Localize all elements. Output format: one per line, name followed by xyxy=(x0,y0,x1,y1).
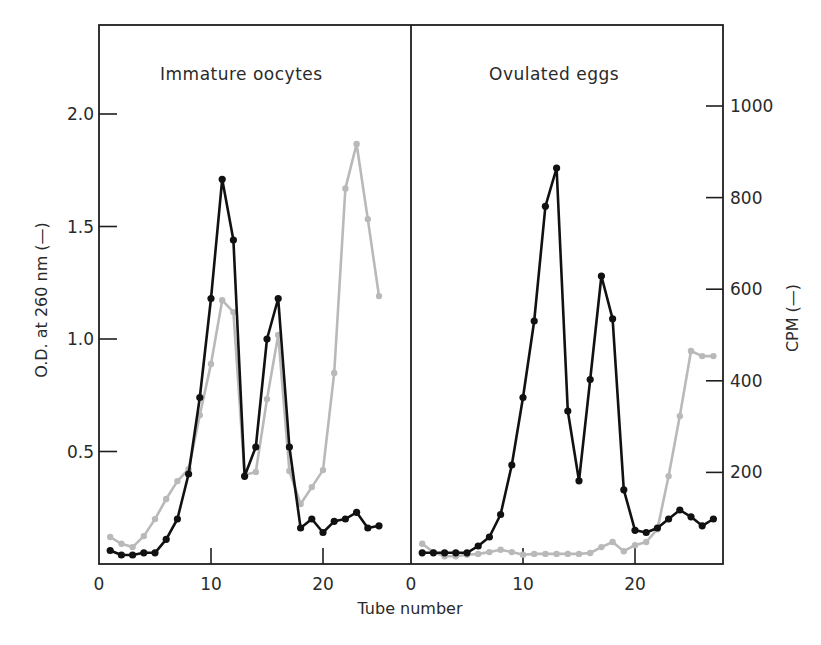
left-tick-label: 1.5 xyxy=(67,217,94,237)
od-data-point xyxy=(430,549,437,556)
cpm-data-point xyxy=(565,551,571,557)
od-data-point xyxy=(196,394,203,401)
y-axis-label-right: CPM (—) xyxy=(783,284,802,352)
cpm-data-point xyxy=(141,533,147,539)
cpm-data-point xyxy=(353,141,359,147)
od-data-point xyxy=(342,515,349,522)
cpm-data-point xyxy=(129,544,135,550)
od-data-point xyxy=(419,549,426,556)
od-data-point xyxy=(297,524,304,531)
od-data-point xyxy=(542,203,549,210)
od-data-point xyxy=(118,551,125,558)
cpm-series-0 xyxy=(107,141,382,551)
x-axis-label: Tube number xyxy=(356,599,462,618)
cpm-data-point xyxy=(118,541,124,547)
od-data-point xyxy=(643,529,650,536)
od-data-point xyxy=(207,295,214,302)
od-data-point xyxy=(531,317,538,324)
od-data-point xyxy=(710,515,717,522)
od-data-point xyxy=(129,551,136,558)
od-data-point xyxy=(107,547,114,554)
cpm-data-point xyxy=(152,516,158,522)
panel-title-immature-oocytes: Immature oocytes xyxy=(160,64,323,84)
cpm-data-point xyxy=(621,548,627,554)
cpm-data-point xyxy=(219,297,225,303)
od-data-point xyxy=(275,295,282,302)
od-data-point xyxy=(353,509,360,516)
od-data-point xyxy=(252,443,259,450)
cpm-data-point xyxy=(208,361,214,367)
cpm-data-point xyxy=(475,551,481,557)
od-data-point xyxy=(452,549,459,556)
chart-canvas: Immature oocytes Ovulated eggs Tube numb… xyxy=(0,0,821,645)
right-y-axis-ticks: 2004006008001000 xyxy=(706,96,773,482)
od-data-point xyxy=(486,533,493,540)
od-line xyxy=(422,168,713,553)
left-tick-label: 2.0 xyxy=(67,104,94,124)
left-tick-label: 1.0 xyxy=(67,329,94,349)
cpm-data-point xyxy=(609,539,615,545)
od-series-1 xyxy=(419,164,717,556)
od-data-point xyxy=(598,272,605,279)
od-data-point xyxy=(609,315,616,322)
y-axis-label-left: O.D. at 260 nm (—) xyxy=(32,222,51,378)
cpm-data-point xyxy=(632,542,638,548)
od-data-point xyxy=(699,522,706,529)
cpm-data-point xyxy=(163,496,169,502)
cpm-data-point xyxy=(509,549,515,555)
od-data-point xyxy=(151,549,158,556)
right-tick-label: 200 xyxy=(730,462,762,482)
od-data-point xyxy=(553,164,560,171)
od-data-point xyxy=(286,443,293,450)
cpm-data-point xyxy=(253,469,259,475)
right-tick-label: 800 xyxy=(730,188,762,208)
panel-title-ovulated-eggs: Ovulated eggs xyxy=(489,64,619,84)
od-series-0 xyxy=(107,176,383,559)
cpm-data-point xyxy=(576,551,582,557)
od-data-point xyxy=(364,524,371,531)
od-data-point xyxy=(564,407,571,414)
od-data-point xyxy=(497,511,504,518)
cpm-data-point xyxy=(320,467,326,473)
od-data-point xyxy=(631,527,638,534)
cpm-data-point xyxy=(331,370,337,376)
right-tick-label: 400 xyxy=(730,371,762,391)
cpm-data-point xyxy=(174,478,180,484)
od-data-point xyxy=(587,376,594,383)
od-data-point xyxy=(463,549,470,556)
cpm-data-point xyxy=(376,293,382,299)
od-data-point xyxy=(687,513,694,520)
cpm-data-point xyxy=(520,552,526,558)
od-line xyxy=(110,179,379,555)
cpm-data-point xyxy=(486,549,492,555)
cpm-data-point xyxy=(497,547,503,553)
od-data-point xyxy=(308,515,315,522)
od-data-point xyxy=(219,176,226,183)
cpm-data-point xyxy=(342,185,348,191)
cpm-data-point xyxy=(688,348,694,354)
cpm-data-point xyxy=(710,353,716,359)
od-data-point xyxy=(319,529,326,536)
right-tick-label: 600 xyxy=(730,279,762,299)
cpm-data-point xyxy=(553,551,559,557)
cpm-data-point xyxy=(699,353,705,359)
od-data-point xyxy=(263,335,270,342)
cpm-data-point xyxy=(365,216,371,222)
x-tick-label: 20 xyxy=(312,574,334,594)
cpm-data-point xyxy=(677,413,683,419)
cpm-series-1 xyxy=(419,348,717,560)
od-data-point xyxy=(241,473,248,480)
right-tick-label: 1000 xyxy=(730,96,773,116)
od-data-point xyxy=(508,461,515,468)
od-data-point xyxy=(676,506,683,513)
od-data-point xyxy=(140,549,147,556)
cpm-data-point xyxy=(309,484,315,490)
chromatography-profile-figure: Immature oocytes Ovulated eggs Tube numb… xyxy=(0,0,821,645)
od-data-point xyxy=(174,515,181,522)
x-tick-label: 10 xyxy=(200,574,222,594)
cpm-data-point xyxy=(598,544,604,550)
od-data-point xyxy=(331,518,338,525)
od-data-point xyxy=(665,515,672,522)
od-data-point xyxy=(475,542,482,549)
od-data-point xyxy=(185,470,192,477)
